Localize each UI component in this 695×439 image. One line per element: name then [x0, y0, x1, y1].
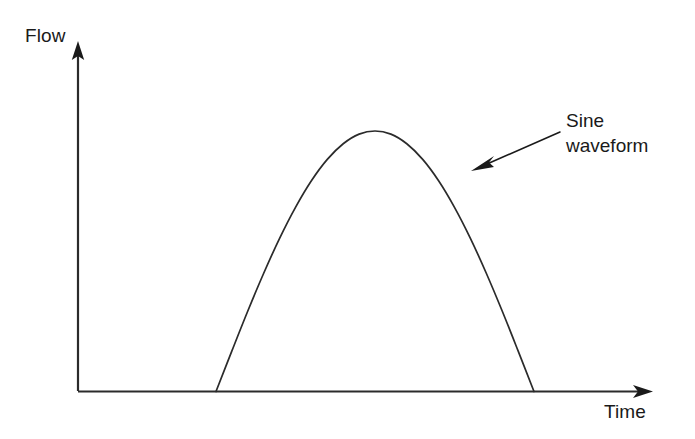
annotation-line-1: Sine	[566, 108, 648, 133]
diagram-canvas	[0, 0, 695, 439]
arrow-left-icon	[471, 156, 494, 171]
annotation-leader-line	[487, 132, 560, 164]
x-axis-label: Time	[604, 401, 646, 422]
sine-waveform-figure: Flow Time Sine waveform	[0, 0, 695, 439]
y-axis-label: Flow	[25, 25, 66, 46]
sine-waveform-curve	[216, 131, 534, 392]
sine-waveform-annotation: Sine waveform	[566, 108, 648, 158]
annotation-line-2: waveform	[566, 133, 648, 158]
